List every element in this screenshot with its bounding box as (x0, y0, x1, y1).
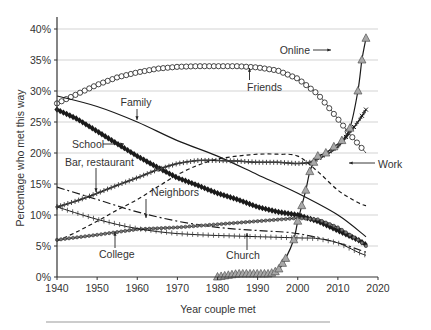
small-circle-marker (356, 238, 359, 241)
small-circle-marker (104, 232, 107, 235)
small-circle-marker (232, 221, 235, 224)
small-circle-marker (176, 226, 179, 229)
open-circle-marker (350, 135, 355, 140)
small-circle-marker (316, 218, 319, 221)
x-tick-label: 2020 (366, 282, 390, 294)
small-circle-marker (332, 224, 335, 227)
plus-marker (91, 192, 95, 197)
plus-marker (174, 161, 178, 166)
small-circle-marker (300, 217, 303, 220)
plus-marker (62, 202, 66, 207)
plus-marker (134, 176, 138, 181)
y-axis-title: Percentage who met this way (14, 89, 26, 227)
y-tick-label: 20% (30, 147, 51, 159)
small-circle-marker (196, 224, 199, 227)
small-circle-marker (116, 230, 119, 233)
plus-marker (77, 198, 81, 203)
x-tick-label: 2000 (286, 282, 310, 294)
arrowhead-icon (144, 214, 147, 218)
small-circle-marker (264, 219, 267, 222)
small-circle-marker (168, 226, 171, 229)
small-circle-marker (344, 231, 347, 234)
plus-marker (246, 159, 250, 164)
x-tick-label: 2010 (326, 282, 350, 294)
plus-marker (98, 190, 102, 195)
small-circle-marker (228, 222, 231, 225)
small-circle-marker (184, 225, 187, 228)
triangle-marker (306, 167, 314, 175)
small-circle-marker (192, 225, 195, 228)
plus-marker (250, 159, 254, 164)
small-circle-marker (124, 229, 127, 232)
x-axis-title: Year couple met (180, 303, 256, 315)
plus-marker (95, 191, 99, 196)
small-circle-marker (204, 224, 207, 227)
triangle-marker (290, 235, 298, 243)
plus-marker (113, 184, 117, 189)
plus-marker (189, 159, 193, 164)
small-circle-marker (200, 224, 203, 227)
arrowhead-icon (135, 116, 138, 120)
open-circle-marker (317, 94, 322, 99)
small-circle-marker (152, 227, 155, 230)
plus-marker (286, 160, 290, 165)
plus-marker (268, 160, 272, 165)
annotation-bar: Bar, restaurant (65, 156, 134, 168)
small-circle-marker (260, 219, 263, 222)
open-circle-marker (336, 117, 341, 122)
annotation-neighbors: Neighbors (151, 186, 199, 198)
open-circle-marker (308, 86, 313, 91)
triangle-marker (322, 149, 330, 157)
y-tick-label: 35% (30, 54, 51, 66)
small-circle-marker (244, 221, 247, 224)
plus-marker (199, 158, 203, 163)
annotation-church: Church (226, 249, 260, 261)
y-tick-label: 5% (36, 240, 51, 252)
plus-marker (138, 174, 142, 179)
triangle-marker (358, 56, 366, 64)
small-circle-marker (92, 234, 95, 237)
small-circle-marker (180, 225, 183, 228)
open-circle-marker (359, 145, 364, 150)
small-circle-marker (63, 237, 66, 240)
small-circle-marker (108, 232, 111, 235)
plus-marker (293, 161, 297, 166)
line-chart: 0%5%10%15%20%25%30%35%40%194019501960197… (0, 0, 431, 330)
plus-marker (142, 173, 146, 178)
small-circle-marker (67, 237, 70, 240)
plus-marker (171, 163, 175, 168)
small-circle-marker (248, 220, 251, 223)
small-circle-marker (352, 236, 355, 239)
small-circle-marker (340, 228, 343, 231)
annotation-work: Work (378, 158, 403, 170)
small-circle-marker (252, 220, 255, 223)
small-circle-marker (348, 233, 351, 236)
plus-marker (236, 159, 240, 164)
open-circle-marker (304, 83, 309, 88)
plus-marker (275, 160, 279, 165)
y-tick-label: 10% (30, 209, 51, 221)
small-circle-marker (96, 233, 99, 236)
plus-marker (120, 181, 124, 186)
small-circle-marker (224, 222, 227, 225)
small-circle-marker (280, 218, 283, 221)
plus-marker (279, 160, 283, 165)
plus-marker (145, 171, 149, 176)
plus-marker (261, 160, 265, 165)
plus-marker (257, 160, 261, 165)
small-circle-marker (100, 233, 103, 236)
plus-marker (116, 182, 120, 187)
plus-marker (243, 159, 247, 164)
x-tick-label: 1980 (206, 282, 230, 294)
small-circle-marker (364, 244, 367, 247)
open-circle-marker (340, 123, 345, 128)
open-circle-marker (299, 79, 304, 84)
small-circle-marker (292, 217, 295, 220)
small-circle-marker (240, 221, 243, 224)
small-circle-marker (236, 221, 239, 224)
arrowhead-icon (349, 161, 353, 164)
small-circle-marker (164, 226, 167, 229)
y-tick-label: 30% (30, 85, 51, 97)
plus-marker (301, 161, 305, 166)
plus-marker (283, 160, 287, 165)
